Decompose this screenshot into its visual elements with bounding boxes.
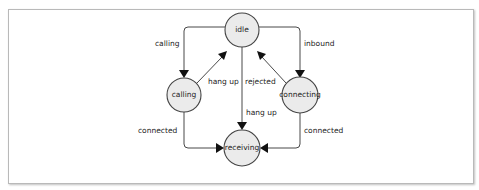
arrowhead-receiving-left bbox=[216, 143, 224, 153]
edge-calling-to-receiving bbox=[184, 112, 216, 148]
node-label-receiving: receiving bbox=[225, 143, 260, 152]
node-label-idle: idle bbox=[235, 25, 249, 34]
edge-label-inbound: inbound bbox=[304, 39, 335, 48]
node-receiving: receiving bbox=[224, 130, 260, 166]
edge-label-calling: calling bbox=[155, 39, 180, 48]
edge-idle-to-connecting bbox=[259, 27, 300, 70]
edge-label-hangup-left: hang up bbox=[208, 77, 239, 86]
edge-label-connected-left: connected bbox=[138, 126, 178, 135]
node-calling: calling bbox=[167, 78, 201, 112]
state-diagram: calling inbound hang up rejected hang up… bbox=[0, 0, 479, 190]
arrowhead-idle-right bbox=[257, 51, 266, 60]
edge-idle-to-calling bbox=[184, 27, 225, 70]
node-label-calling: calling bbox=[172, 90, 197, 99]
arrowhead-receiving-top bbox=[237, 122, 247, 130]
edge-label-hangup-center: hang up bbox=[246, 108, 277, 117]
edge-connecting-to-receiving bbox=[268, 113, 300, 148]
node-label-connecting: connecting bbox=[279, 90, 321, 99]
arrowhead-calling bbox=[179, 70, 189, 78]
edge-label-connected-right: connected bbox=[304, 126, 344, 135]
arrowhead-idle-left bbox=[218, 51, 227, 60]
edge-label-rejected: rejected bbox=[245, 77, 276, 86]
node-idle: idle bbox=[225, 13, 259, 47]
arrowhead-receiving-right bbox=[260, 143, 268, 153]
